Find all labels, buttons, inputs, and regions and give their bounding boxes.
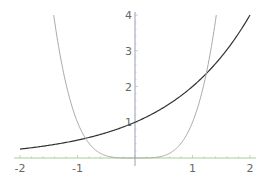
y-tick-label: 1 [125, 116, 132, 129]
x-tick-label: -2 [15, 162, 26, 175]
y-tick-label: 4 [125, 9, 132, 22]
x-tick-label: -1 [72, 162, 83, 175]
y-tick-label: 3 [125, 45, 132, 58]
y-tick-label: 2 [125, 81, 132, 94]
x-tick-label: 2 [247, 162, 254, 175]
axes [14, 12, 256, 166]
x-tick-label: 1 [189, 162, 196, 175]
plot-canvas: -2-1121234 [0, 0, 267, 179]
tick-labels: -2-1121234 [15, 9, 254, 175]
